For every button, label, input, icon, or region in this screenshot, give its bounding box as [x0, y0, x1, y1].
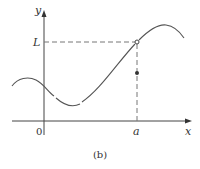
L-label: L: [32, 36, 40, 49]
y-axis-arrow: [42, 10, 47, 17]
function-curve-segment: [56, 98, 80, 106]
open-circle-limit-point: [135, 40, 139, 44]
function-curve-segment: [139, 25, 184, 40]
a-label: a: [133, 125, 140, 138]
x-axis-label: x: [185, 125, 192, 138]
origin-label: 0: [36, 126, 42, 137]
limit-diagram: y x L a 0 (b): [0, 0, 200, 169]
function-curve-segment: [82, 44, 135, 102]
filled-dot-function-value: [135, 71, 139, 75]
y-axis-label: y: [34, 4, 42, 17]
function-curve: [12, 78, 54, 96]
x-axis-arrow: [185, 119, 192, 124]
figure-caption: (b): [93, 149, 107, 160]
